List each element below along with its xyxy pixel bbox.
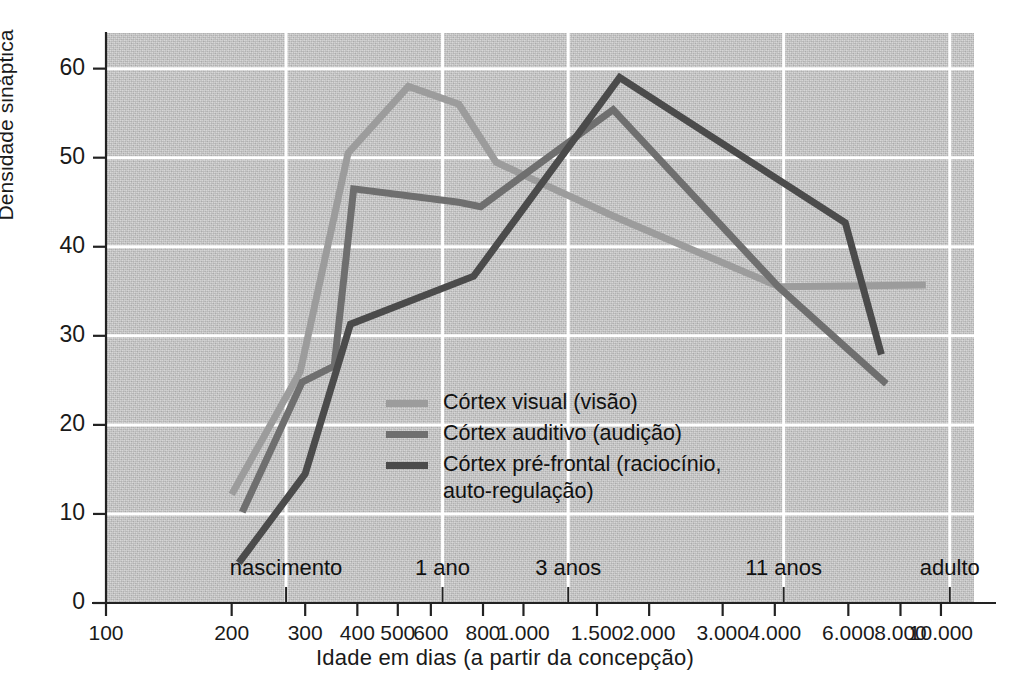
chart-legend: Córtex visual (visão)Córtex auditivo (au…: [386, 389, 721, 509]
legend-label: Córtex auditivo (audição): [443, 420, 682, 447]
y-tick-label: 30: [33, 321, 85, 348]
x-category-label: adulto: [850, 555, 1010, 581]
y-axis-title: Densidade sináptica: [0, 0, 18, 255]
y-tick-label: 20: [33, 410, 85, 437]
legend-item: Córtex pré-frontal (raciocínio, auto-reg…: [386, 451, 721, 505]
y-tick-label: 50: [33, 143, 85, 170]
y-tick-label: 40: [33, 232, 85, 259]
axis-lines: [92, 32, 996, 603]
legend-item: Córtex auditivo (audição): [386, 420, 721, 447]
chart-figure: 0102030405060 1002003004005006008001.000…: [0, 0, 1010, 700]
legend-item: Córtex visual (visão): [386, 389, 721, 416]
x-axis-title: Idade em dias (a partir da concepção): [0, 645, 1010, 671]
gridlines: [106, 33, 974, 603]
legend-swatch-icon: [386, 462, 428, 469]
chart-canvas: [0, 0, 1010, 700]
y-tick-label: 10: [33, 499, 85, 526]
x-category-label: 3 anos: [468, 555, 668, 581]
tick-marks: [93, 69, 950, 616]
y-tick-label: 60: [33, 54, 85, 81]
legend-label: Córtex pré-frontal (raciocínio, auto-reg…: [443, 451, 721, 505]
x-tick-label: 10.000: [886, 621, 996, 645]
y-tick-label: 0: [33, 588, 85, 615]
legend-swatch-icon: [386, 431, 428, 438]
x-tick-label: 100: [51, 621, 161, 645]
legend-swatch-icon: [386, 400, 428, 407]
legend-label: Córtex visual (visão): [443, 389, 638, 416]
